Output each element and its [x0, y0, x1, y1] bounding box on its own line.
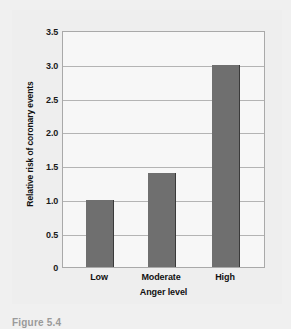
y-tick-label-3.5: 3.5 [46, 27, 58, 37]
x-tick-label-high: High [215, 272, 235, 282]
bar-low[interactable] [86, 200, 114, 267]
plot-area [62, 31, 265, 268]
y-tick-label-0.5: 0.5 [46, 230, 58, 240]
y-axis-tick-labels: 3.5 3.0 2.5 2.0 1.5 1.0 0.5 0 [32, 31, 58, 268]
y-axis-title: Relative risk of coronary events [25, 59, 35, 229]
y-tick-label-1.5: 1.5 [46, 162, 58, 172]
x-tick-label-moderate: Moderate [141, 272, 180, 282]
figure-panel: 3.5 3.0 2.5 2.0 1.5 1.0 0.5 0 Relative r… [12, 10, 282, 304]
y-tick-label-0: 0 [53, 263, 58, 273]
bar-high[interactable] [212, 65, 240, 267]
x-tick-label-low: Low [90, 272, 108, 282]
y-tick-label-2.0: 2.0 [46, 128, 58, 138]
x-axis-tick-labels: Low Moderate High [62, 272, 265, 286]
figure-root: 3.5 3.0 2.5 2.0 1.5 1.0 0.5 0 Relative r… [0, 0, 291, 329]
y-tick-label-2.5: 2.5 [46, 95, 58, 105]
x-axis-title: Anger level [62, 287, 265, 297]
y-tick-label-3.0: 3.0 [46, 61, 58, 71]
bar-moderate[interactable] [148, 173, 176, 267]
figure-caption: Figure 5.4 [12, 317, 61, 328]
y-tick-label-1.0: 1.0 [46, 196, 58, 206]
